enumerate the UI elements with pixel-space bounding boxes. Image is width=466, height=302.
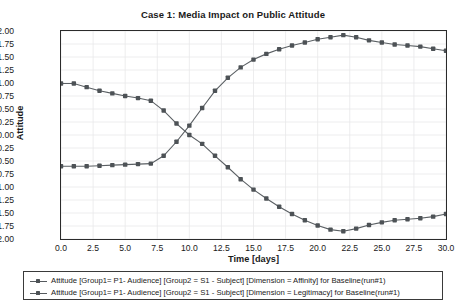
y-tick-label: 0.25 — [0, 117, 14, 127]
y-tick-label: -1.75 — [0, 221, 14, 231]
x-tick-label: 22.5 — [325, 243, 375, 253]
x-tick-label: 10.0 — [164, 243, 214, 253]
x-tick-label: 20.0 — [293, 243, 343, 253]
y-tick-label: -1.25 — [0, 195, 14, 205]
x-tick-label: 27.5 — [389, 243, 439, 253]
y-tick-label: 1.50 — [0, 52, 14, 62]
plot-svg — [61, 31, 446, 239]
y-axis-label: Attitude — [15, 83, 25, 163]
x-axis-label: Time [days] — [60, 254, 447, 264]
y-tick-label: 1.75 — [0, 39, 14, 49]
plot-wrapper — [60, 30, 447, 240]
y-tick-label: -0.25 — [0, 143, 14, 153]
y-tick-label: 1.25 — [0, 65, 14, 75]
legend-item[interactable]: Attitude [Group1= P1- Audience] [Group2 … — [30, 288, 436, 300]
y-tick-label: 1.00 — [0, 78, 14, 88]
x-tick-label: 7.5 — [132, 243, 182, 253]
y-tick-label: -1.50 — [0, 208, 14, 218]
y-tick-label: -0.50 — [0, 156, 14, 166]
legend: Attitude [Group1= P1- Audience] [Group2 … — [23, 271, 443, 300]
legend-item[interactable]: Attitude [Group1= P1- Audience] [Group2 … — [30, 276, 436, 288]
y-tick-label: 2.00 — [0, 26, 14, 36]
x-tick-label: 5.0 — [100, 243, 150, 253]
x-tick-label: 30.0 — [421, 243, 466, 253]
x-tick-label: 12.5 — [196, 243, 246, 253]
chart-figure: Case 1: Media Impact on Public Attitude … — [0, 0, 466, 302]
chart-title: Case 1: Media Impact on Public Attitude — [0, 9, 466, 20]
y-tick-label: 0.75 — [0, 91, 14, 101]
legend-marker-icon — [30, 277, 47, 286]
legend-item-label: Attitude [Group1= P1- Audience] [Group2 … — [51, 288, 400, 298]
x-tick-label: 17.5 — [261, 243, 311, 253]
y-tick-label: -1.00 — [0, 182, 14, 192]
y-tick-label: -0.75 — [0, 169, 14, 179]
x-tick-label: 25.0 — [357, 243, 407, 253]
y-tick-label: 0.00 — [0, 130, 14, 140]
x-tick-label: 15.0 — [229, 243, 279, 253]
plot-area — [60, 30, 447, 240]
legend-marker-icon — [30, 289, 47, 298]
y-tick-label: -2.00 — [0, 234, 14, 244]
y-tick-label: 0.50 — [0, 104, 14, 114]
x-tick-label: 0.0 — [36, 243, 86, 253]
x-tick-label: 2.5 — [68, 243, 118, 253]
legend-item-label: Attitude [Group1= P1- Audience] [Group2 … — [51, 276, 386, 286]
